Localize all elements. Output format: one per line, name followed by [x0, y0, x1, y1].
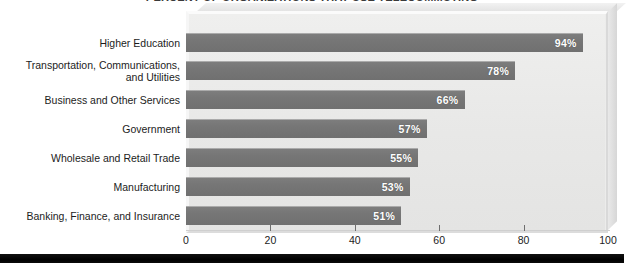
category-label: Government: [0, 123, 180, 135]
bar: 55%: [186, 148, 418, 167]
bar-value-label: 55%: [390, 152, 412, 164]
axis-tick-label: 0: [156, 234, 216, 246]
bar: 94%: [186, 33, 583, 52]
axis-tick-label: 60: [409, 234, 469, 246]
bar: 57%: [186, 119, 427, 138]
bar-value-label: 57%: [399, 123, 421, 135]
bar: 78%: [186, 61, 515, 80]
category-label: Banking, Finance, and Insurance: [0, 210, 180, 222]
axis-tick-label: 80: [494, 234, 554, 246]
axis-tick-label: 20: [240, 234, 300, 246]
category-label: Wholesale and Retail Trade: [0, 152, 180, 164]
category-label: Higher Education: [0, 37, 180, 49]
category-label: Manufacturing: [0, 181, 180, 193]
axis-tick: [355, 225, 356, 231]
category-label: Business and Other Services: [0, 94, 180, 106]
bar: 53%: [186, 177, 410, 196]
axis-tick: [439, 225, 440, 231]
value-axis-line: [186, 230, 610, 231]
axis-tick: [524, 225, 525, 231]
bar-value-label: 51%: [373, 210, 395, 222]
axis-tick: [270, 225, 271, 231]
axis-tick-label: 40: [325, 234, 385, 246]
plot-panel-right-face: [608, 3, 617, 230]
page-bottom-edge: [0, 254, 624, 263]
bar-value-label: 66%: [437, 94, 459, 106]
category-label: Transportation, Communications, and Util…: [0, 59, 180, 83]
bar-value-label: 53%: [382, 181, 404, 193]
bar: 66%: [186, 90, 465, 109]
bar-value-label: 94%: [555, 37, 577, 49]
bar: 51%: [186, 206, 401, 225]
bar-value-label: 78%: [487, 65, 509, 77]
axis-tick-label: 100: [578, 234, 630, 246]
